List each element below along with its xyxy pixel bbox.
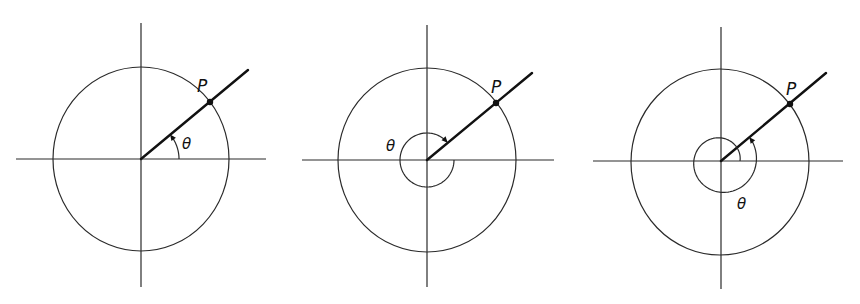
theta-label: θ <box>386 137 395 155</box>
angle-diagrams: P θ P θ P θ <box>0 0 860 304</box>
panel-1: P θ <box>16 23 266 287</box>
theta-label: θ <box>182 135 191 153</box>
panel-3: P θ <box>593 27 843 289</box>
point-p-label: P <box>491 77 502 97</box>
panel-2: P θ <box>302 25 554 287</box>
point-p-dot <box>493 100 499 106</box>
terminal-ray <box>141 70 248 159</box>
figure: P θ P θ P θ <box>0 0 860 304</box>
theta-label: θ <box>737 195 746 213</box>
theta-arrowhead-icon <box>170 135 176 141</box>
point-p-label: P <box>786 79 797 99</box>
point-p-dot <box>207 99 213 105</box>
point-p-dot <box>787 101 793 107</box>
point-p-label: P <box>197 76 208 96</box>
theta-arc <box>694 138 757 193</box>
circle <box>631 69 809 255</box>
